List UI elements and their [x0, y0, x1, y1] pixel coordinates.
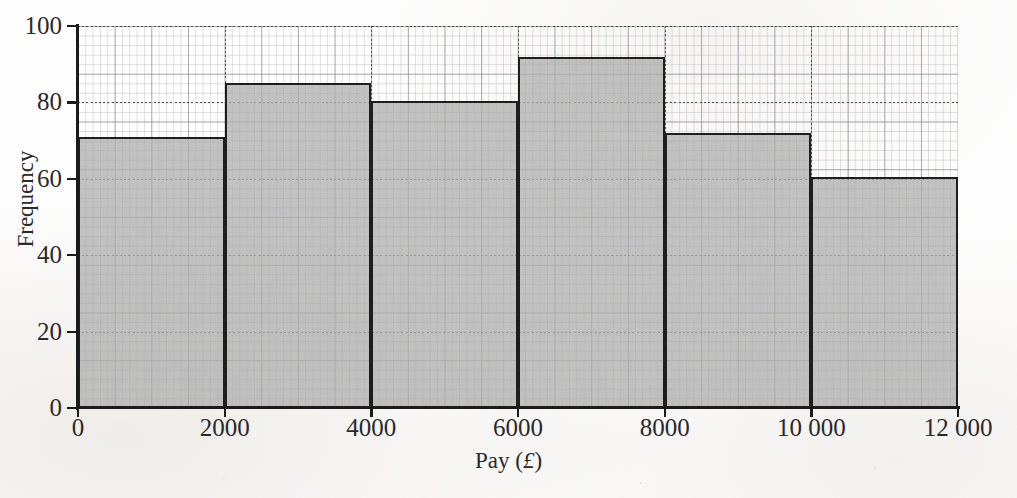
- histogram-bar: [78, 137, 225, 408]
- histogram-bar: [225, 83, 372, 408]
- x-tick-label: 8000: [640, 415, 690, 440]
- y-tick-label: 0: [0, 395, 62, 420]
- x-tick-label: 4000: [346, 415, 396, 440]
- y-axis-title: Frequency: [13, 89, 39, 309]
- y-tick-mark: [67, 178, 78, 180]
- histogram-bar: [665, 133, 812, 408]
- x-axis-title: Pay (£): [0, 448, 1017, 474]
- pound-sign: £: [523, 448, 535, 473]
- plot-area: [78, 26, 958, 408]
- y-axis-line: [76, 24, 79, 410]
- y-tick-label: 100: [0, 13, 62, 38]
- histogram-bar: [518, 57, 665, 408]
- y-tick-mark: [67, 254, 78, 256]
- y-tick-mark: [67, 331, 78, 333]
- histogram-bar: [371, 101, 518, 409]
- y-tick-mark: [67, 25, 78, 27]
- x-axis-title-close: ): [534, 448, 542, 473]
- x-tick-label: 10 000: [777, 415, 846, 440]
- x-axis-title-text: Pay (: [475, 448, 523, 473]
- x-tick-label: 0: [72, 415, 85, 440]
- x-tick-label: 2000: [200, 415, 250, 440]
- histogram-bar: [811, 177, 958, 408]
- y-tick-mark: [67, 101, 78, 103]
- y-tick-label: 20: [0, 319, 62, 344]
- x-tick-label: 12 000: [924, 415, 993, 440]
- x-tick-label: 6000: [493, 415, 543, 440]
